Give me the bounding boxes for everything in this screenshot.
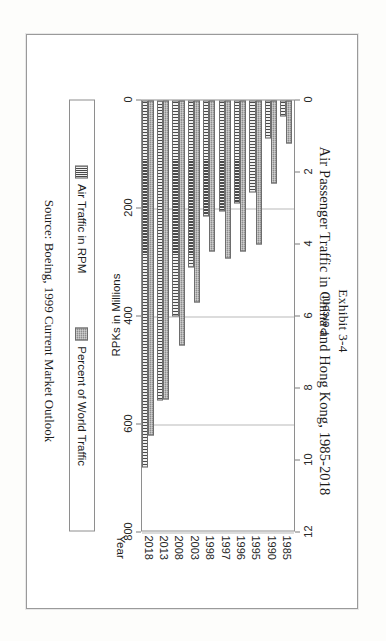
bar-group xyxy=(202,100,217,530)
axis-tick xyxy=(136,99,141,100)
legend-label: Air Traffic in RPM xyxy=(76,184,88,273)
year-label: 1998 xyxy=(204,535,216,579)
bar-air-traffic-rpm xyxy=(280,100,286,116)
axis-tick xyxy=(136,315,141,316)
source-note: Source: Boeing, 1999 Current Market Outl… xyxy=(41,37,57,604)
bar-group xyxy=(155,100,170,530)
bar-percent-of-world-traffic xyxy=(240,100,246,251)
axis-tick xyxy=(136,207,141,208)
bar-air-traffic-rpm xyxy=(234,100,240,203)
axis-tick-label: 400 xyxy=(122,306,134,324)
axis-tick xyxy=(295,531,300,532)
legend-swatch-icon xyxy=(76,165,89,178)
exhibit-label: Exhibit 3-4 xyxy=(335,37,351,604)
axis-tick-label: 12 xyxy=(302,525,314,537)
year-label: 2018 xyxy=(143,535,155,579)
bar-group xyxy=(171,100,186,530)
axis-tick xyxy=(136,423,141,424)
year-axis-title: Year xyxy=(115,535,127,595)
legend-item: Air Traffic in RPM xyxy=(76,165,89,273)
year-label: 1997 xyxy=(220,535,232,579)
year-label: 1996 xyxy=(235,535,247,579)
bar-air-traffic-rpm xyxy=(172,100,178,316)
axis-tick-label: 0 xyxy=(122,96,134,102)
legend-label: Percent of World Traffic xyxy=(76,346,88,466)
bar-percent-of-world-traffic xyxy=(225,100,231,258)
figure: Exhibit 3-4 Air Passenger Traffic in Chi… xyxy=(29,37,353,604)
axis-tick-label: 4 xyxy=(302,240,314,246)
bar-air-traffic-rpm xyxy=(203,100,209,216)
bar-group xyxy=(140,100,155,530)
gridline xyxy=(142,532,294,533)
bar-air-traffic-rpm xyxy=(142,100,148,467)
percent-axis-title: Percent xyxy=(319,99,331,531)
axis-tick xyxy=(295,315,300,316)
bar-air-traffic-rpm xyxy=(249,100,255,192)
axis-tick-label: 8 xyxy=(302,384,314,390)
scanned-page: Exhibit 3-4 Air Passenger Traffic in Chi… xyxy=(0,0,386,641)
bar-percent-of-world-traffic xyxy=(256,100,262,244)
chart-legend: Air Traffic in RPMPercent of World Traff… xyxy=(69,99,95,531)
rpk-axis: 0200400600800 RPKs in Millions xyxy=(107,99,141,531)
year-label: 1995 xyxy=(251,535,263,579)
bar-group xyxy=(279,100,294,530)
bar-air-traffic-rpm xyxy=(219,100,225,211)
rpk-axis-title: RPKs in Millions xyxy=(110,99,122,531)
year-label: 2003 xyxy=(189,535,201,579)
bar-group xyxy=(248,100,263,530)
bar-group xyxy=(232,100,247,530)
axis-tick-label: 0 xyxy=(302,96,314,102)
legend-swatch-icon xyxy=(76,327,89,340)
axis-tick xyxy=(295,243,300,244)
bar-percent-of-world-traffic xyxy=(163,100,169,399)
axis-tick-label: 600 xyxy=(122,414,134,432)
year-label: 2013 xyxy=(158,535,170,579)
bar-percent-of-world-traffic xyxy=(271,100,277,183)
plot-area xyxy=(141,99,295,531)
year-label: 1990 xyxy=(266,535,278,579)
bar-group xyxy=(217,100,232,530)
percent-axis: Percent 024681012 xyxy=(295,99,329,531)
axis-tick-label: 2 xyxy=(302,168,314,174)
axis-tick-label: 10 xyxy=(302,453,314,465)
axis-tick xyxy=(295,171,300,172)
axis-tick xyxy=(136,531,141,532)
legend-item: Percent of World Traffic xyxy=(76,327,89,466)
rotated-figure-viewport: Exhibit 3-4 Air Passenger Traffic in Chi… xyxy=(26,34,356,607)
axis-tick xyxy=(295,459,300,460)
year-label: 1985 xyxy=(281,535,293,579)
bar-percent-of-world-traffic xyxy=(194,100,200,302)
bar-air-traffic-rpm xyxy=(157,100,163,400)
bar-group xyxy=(263,100,278,530)
bar-air-traffic-rpm xyxy=(188,100,194,267)
bar-air-traffic-rpm xyxy=(265,100,271,138)
axis-tick xyxy=(295,387,300,388)
year-label: 2008 xyxy=(174,535,186,579)
bar-percent-of-world-traffic xyxy=(209,100,215,251)
axis-tick-label: 200 xyxy=(122,198,134,216)
bar-percent-of-world-traffic xyxy=(148,100,154,435)
axis-tick-label: 6 xyxy=(302,312,314,318)
bar-percent-of-world-traffic xyxy=(286,100,292,143)
axis-tick xyxy=(295,99,300,100)
year-axis: 1985199019951996199719982003200820132018… xyxy=(141,535,295,593)
bar-group xyxy=(186,100,201,530)
bar-percent-of-world-traffic xyxy=(179,100,185,345)
